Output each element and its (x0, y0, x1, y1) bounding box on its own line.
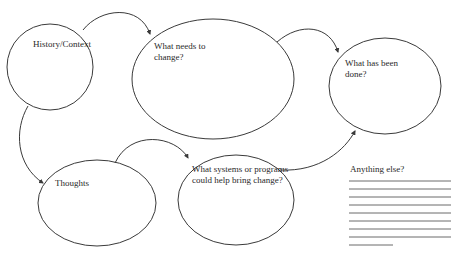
label-what-needs-to-change: What needs to change? (154, 41, 205, 63)
node-what-needs-to-change (132, 19, 294, 139)
arrow-systems-to-done (280, 131, 355, 170)
arrow-history-to-thoughts (19, 106, 43, 183)
node-thoughts (38, 160, 156, 246)
label-history-context: History/Context (33, 39, 91, 50)
label-anything-else: Anything else? (350, 164, 404, 175)
arrow-thoughts-to-systems (115, 140, 188, 164)
label-what-has-been-done: What has been done? (345, 58, 398, 80)
label-thoughts: Thoughts (55, 178, 89, 189)
node-what-has-been-done (329, 38, 441, 134)
arrow-history-to-change (83, 13, 150, 35)
label-systems-programs: What systems or programs could help brin… (192, 164, 288, 186)
notes-lines (349, 181, 451, 245)
arrow-change-to-done (277, 29, 338, 52)
node-history-context (7, 24, 93, 110)
